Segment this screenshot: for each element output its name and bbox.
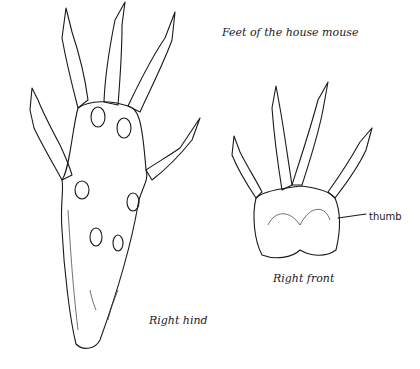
- right-front-foot: [232, 82, 372, 258]
- thumb-label: thumb: [369, 211, 402, 222]
- feet-illustration: [0, 0, 420, 369]
- figure-title: Feet of the house mouse: [222, 26, 358, 39]
- right-hind-foot: [30, 2, 200, 348]
- right-hind-label: Right hind: [149, 314, 208, 327]
- right-front-label: Right front: [273, 272, 334, 285]
- thumb-pointer-line: [338, 214, 366, 218]
